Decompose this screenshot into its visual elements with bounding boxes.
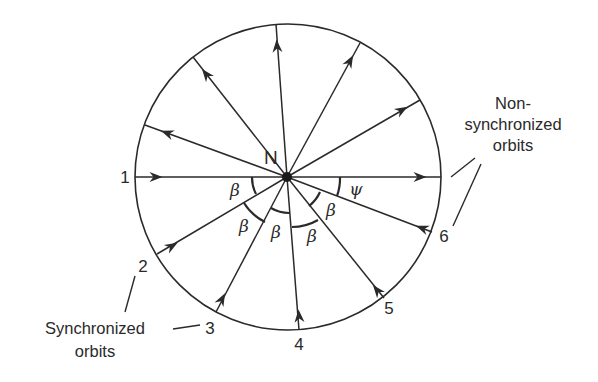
- arc-beta-3-4: [271, 208, 290, 213]
- beta-label-5: β: [325, 200, 336, 220]
- orbit-ray-4: [287, 177, 299, 330]
- psi-label-6: ψ: [349, 179, 363, 199]
- beta-label-3: β: [270, 222, 281, 242]
- center-node: [282, 172, 292, 182]
- nonsync-caption-line3: orbits: [493, 136, 533, 154]
- center-node-label: N: [264, 147, 278, 168]
- arrow-icon-orbit-4: [295, 310, 305, 323]
- beta-label-1: β: [229, 180, 240, 200]
- nonsync-caption-line2: synchronized: [464, 115, 561, 133]
- arrow-icon-outgoing-3: [342, 55, 353, 69]
- arc-beta-1-2: [252, 177, 256, 194]
- leader-nonsync-a: [451, 158, 475, 177]
- orbit-label-5: 5: [384, 299, 393, 318]
- nonsync-caption-line1: Non-: [495, 94, 531, 112]
- leader-sync-2: [125, 276, 135, 312]
- synchronized-caption-line2: orbits: [75, 342, 115, 360]
- synchronized-caption-line1: Synchronized: [45, 319, 145, 337]
- arrow-icon-outgoing-5: [202, 69, 214, 82]
- leader-nonsync-b: [453, 164, 481, 226]
- arc-psi: [337, 177, 340, 196]
- orbit-synchronization-diagram: N 123456 βββββψ Synchronized orbits Non-…: [0, 0, 598, 382]
- orbit-label-1: 1: [120, 168, 129, 187]
- beta-label-4: β: [306, 226, 317, 246]
- orbit-label-6: 6: [439, 227, 448, 246]
- beta-label-2: β: [238, 216, 249, 236]
- leader-sync-3: [173, 325, 200, 329]
- arrow-icon-outgoing-2: [394, 107, 408, 118]
- arc-beta-5-6: [309, 192, 320, 206]
- orbit-label-3: 3: [205, 319, 214, 338]
- orbit-number-labels: 123456: [120, 168, 448, 354]
- orbit-label-4: 4: [294, 335, 303, 354]
- orbit-label-2: 2: [138, 257, 147, 276]
